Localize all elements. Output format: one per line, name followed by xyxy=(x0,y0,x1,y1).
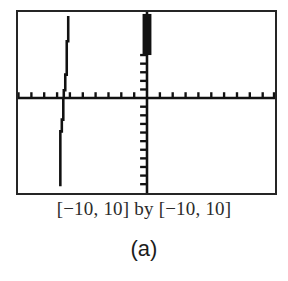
graph-plot xyxy=(18,12,275,193)
panel-label: (a) xyxy=(0,236,288,262)
figure-panel: [−10, 10] by [−10, 10] (a) xyxy=(0,0,288,281)
y-axis-overdraw-bar xyxy=(143,14,152,55)
calculator-screen xyxy=(16,10,277,195)
viewing-window-caption: [−10, 10] by [−10, 10] xyxy=(0,198,288,220)
